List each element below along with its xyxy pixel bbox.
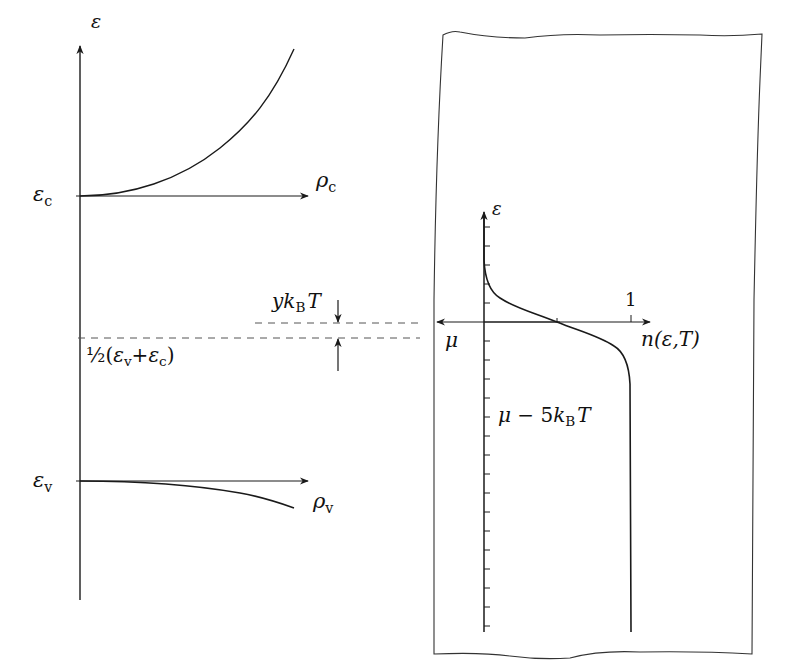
band-diagram-figure: ε εc ρc εv ρv ½(εv+εc) ykBT ε μ n(ε,T) 1… [0, 0, 791, 669]
thermal-offset-label: ykBT [272, 291, 321, 311]
midgap-energy-label: ½(εv+εc) [86, 345, 175, 365]
conduction-band-edge-label: εc [33, 184, 52, 205]
occupation-tick-one-label: 1 [625, 291, 636, 309]
conduction-band-dos-curve [80, 49, 294, 196]
occupation-axis-label: n(ε,T) [641, 329, 700, 349]
paper-sheet [434, 31, 762, 658]
valence-band-dos-curve [80, 481, 294, 508]
chemical-potential-label: μ [445, 330, 458, 350]
five-kbt-below-mu-label: μ − 5kBT [498, 405, 591, 425]
fermi-energy-axis-label: ε [492, 200, 502, 218]
left-energy-axis-label: ε [91, 12, 101, 31]
valence-band-density-label: ρv [313, 491, 333, 512]
valence-band-edge-label: εv [33, 470, 52, 491]
conduction-band-density-label: ρc [316, 170, 336, 191]
